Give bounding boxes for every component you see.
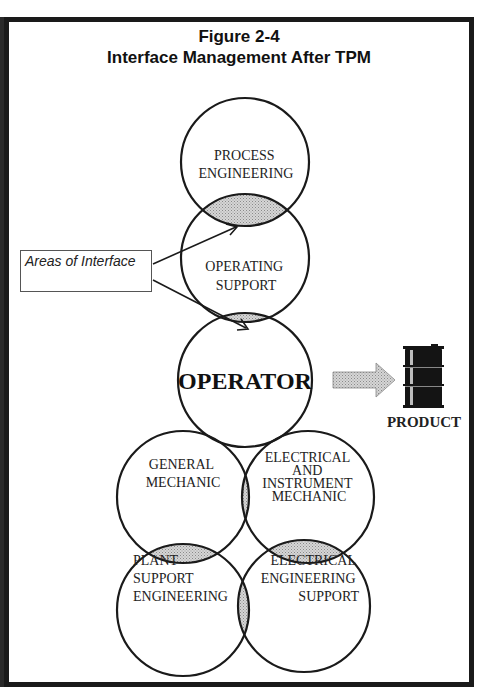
label-plant-support: PLANT SUPPORT ENGINEERING bbox=[133, 553, 228, 604]
interface-diagram: PROCESS ENGINEERING OPERATING SUPPORT OP… bbox=[0, 0, 491, 700]
label-operator: OPERATOR bbox=[178, 368, 312, 394]
label-electrical-engineering: ELECTRICAL ENGINEERING SUPPORT bbox=[261, 553, 360, 604]
output-arrow bbox=[333, 363, 395, 397]
label-ei-mechanic: ELECTRICAL AND INSTRUMENT MECHANIC bbox=[262, 450, 355, 504]
product-label: PRODUCT bbox=[387, 414, 461, 430]
oil-barrel-icon bbox=[403, 344, 444, 408]
areas-of-interface-callout: Areas of Interface bbox=[20, 250, 152, 292]
label-operating-support: OPERATING SUPPORT bbox=[205, 259, 286, 293]
callout-label: Areas of Interface bbox=[25, 253, 136, 269]
label-general-mechanic: GENERAL MECHANIC bbox=[146, 457, 221, 490]
label-process-engineering: PROCESS ENGINEERING bbox=[199, 148, 294, 181]
